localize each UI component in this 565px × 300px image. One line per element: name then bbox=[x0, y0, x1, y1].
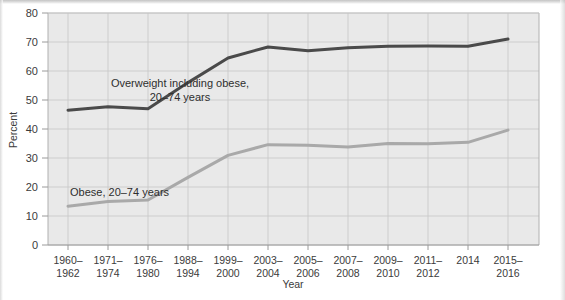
x-tick-label-line2: 1994 bbox=[176, 267, 200, 279]
x-axis-title: Year bbox=[282, 278, 304, 290]
x-tick-label-line2: 2000 bbox=[216, 267, 240, 279]
x-tick-label-line2: 1962 bbox=[56, 267, 80, 279]
x-tick-label-line2: 2008 bbox=[336, 267, 360, 279]
x-tick-label-line1: 2007– bbox=[333, 254, 362, 266]
y-tick-label: 20 bbox=[26, 181, 38, 193]
x-tick-label-line1: 1999– bbox=[213, 254, 242, 266]
y-tick-label: 80 bbox=[26, 7, 38, 19]
x-tick-label-line1: 1971– bbox=[93, 254, 122, 266]
y-tick-label: 50 bbox=[26, 94, 38, 106]
y-tick-label: 0 bbox=[32, 239, 38, 251]
x-tick-label-line1: 2005– bbox=[293, 254, 322, 266]
y-tick-label: 10 bbox=[26, 210, 38, 222]
x-tick-label-line2: 2004 bbox=[256, 267, 280, 279]
x-tick-label-line1: 2003– bbox=[253, 254, 282, 266]
x-tick-label-line1: 2009– bbox=[373, 254, 402, 266]
x-tick-label-line1: 1988– bbox=[173, 254, 202, 266]
x-tick-label-line1: 2014 bbox=[456, 254, 480, 266]
x-tick-label-line2: 2010 bbox=[376, 267, 400, 279]
chart-figure: 01020304050607080 1960–19621971–19741976… bbox=[0, 0, 565, 300]
x-tick-label-line1: 1960– bbox=[53, 254, 82, 266]
x-tick-label-line1: 1976– bbox=[133, 254, 162, 266]
x-tick-label-line2: 1980 bbox=[136, 267, 160, 279]
x-axis-ticks: 1960–19621971–19741976–19801988–19941999… bbox=[53, 245, 522, 279]
x-tick-label-line1: 2015– bbox=[493, 254, 522, 266]
y-tick-label: 60 bbox=[26, 65, 38, 77]
y-axis-ticks: 01020304050607080 bbox=[26, 7, 48, 251]
overweight-series-label-line1: Overweight including obese, bbox=[111, 77, 249, 89]
y-axis-title: Percent bbox=[7, 112, 19, 148]
x-tick-label-line1: 2011– bbox=[414, 254, 443, 266]
overweight-series-label-line2: 20–74 years bbox=[150, 91, 211, 103]
obese-series-label: Obese, 20–74 years bbox=[70, 186, 170, 198]
x-tick-label-line2: 2016 bbox=[496, 267, 520, 279]
y-tick-label: 70 bbox=[26, 36, 38, 48]
x-tick-label-line2: 1974 bbox=[96, 267, 120, 279]
x-tick-label-line2: 2012 bbox=[416, 267, 440, 279]
y-tick-label: 40 bbox=[26, 123, 38, 135]
y-tick-label: 30 bbox=[26, 152, 38, 164]
line-chart: 01020304050607080 1960–19621971–19741976… bbox=[0, 0, 565, 300]
